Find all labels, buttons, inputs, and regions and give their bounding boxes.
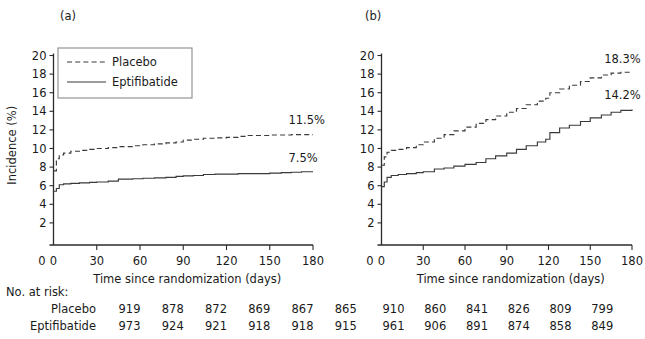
risk-value: 867 xyxy=(292,302,314,316)
svg-text:30: 30 xyxy=(416,254,431,268)
svg-text:20: 20 xyxy=(32,49,47,63)
risk-value: 918 xyxy=(292,319,314,333)
risk-table: No. at risk:PlaceboEptifibatide919878872… xyxy=(6,285,613,333)
risk-value: 915 xyxy=(335,319,357,333)
svg-text:20: 20 xyxy=(360,49,375,63)
svg-text:60: 60 xyxy=(458,254,473,268)
risk-value: 874 xyxy=(508,319,530,333)
risk-value: 891 xyxy=(466,319,488,333)
svg-text:8: 8 xyxy=(367,160,374,174)
svg-text:2: 2 xyxy=(367,216,374,230)
risk-value: 924 xyxy=(162,319,184,333)
svg-text:4: 4 xyxy=(39,197,46,211)
risk-value: 799 xyxy=(591,302,613,316)
risk-value: 878 xyxy=(162,302,184,316)
svg-text:120: 120 xyxy=(538,254,560,268)
svg-text:6: 6 xyxy=(39,179,46,193)
risk-value: 809 xyxy=(550,302,572,316)
svg-text:16: 16 xyxy=(32,86,47,100)
risk-value: 869 xyxy=(248,302,270,316)
svg-text:30: 30 xyxy=(89,254,104,268)
risk-value: 872 xyxy=(205,302,227,316)
risk-value: 910 xyxy=(383,302,405,316)
curve-eptifibatide xyxy=(382,109,633,186)
svg-text:6: 6 xyxy=(367,179,374,193)
svg-text:10: 10 xyxy=(360,142,375,156)
svg-text:60: 60 xyxy=(133,254,148,268)
svg-text:2: 2 xyxy=(39,216,46,230)
annotation-11-5pct: 11.5% xyxy=(288,113,325,127)
risk-value: 919 xyxy=(119,302,141,316)
risk-value: 906 xyxy=(424,319,446,333)
risk-value: 826 xyxy=(508,302,530,316)
svg-text:180: 180 xyxy=(302,254,324,268)
risk-row-label-placebo: Placebo xyxy=(51,302,96,316)
risk-value: 865 xyxy=(335,302,357,316)
curve-placebo xyxy=(54,135,314,171)
svg-text:90: 90 xyxy=(176,254,191,268)
annotation-14-2pct: 14.2% xyxy=(604,88,641,102)
risk-value: 860 xyxy=(424,302,446,316)
panel-b-chart: 024681012141618200306090120150180Time si… xyxy=(360,49,643,287)
svg-text:12: 12 xyxy=(360,123,375,137)
svg-text:16: 16 xyxy=(360,86,375,100)
figure-container: (a) (b) 02468101214161820030609012015018… xyxy=(0,0,645,339)
legend-label-placebo: Placebo xyxy=(112,55,157,69)
svg-text:180: 180 xyxy=(621,254,643,268)
risk-value: 961 xyxy=(383,319,405,333)
svg-text:0: 0 xyxy=(50,254,57,268)
annotation-18-3pct: 18.3% xyxy=(604,52,641,66)
svg-text:8: 8 xyxy=(39,160,46,174)
svg-text:150: 150 xyxy=(259,254,281,268)
annotation-7-5pct: 7.5% xyxy=(288,151,317,165)
svg-text:18: 18 xyxy=(32,67,47,81)
risk-value: 918 xyxy=(248,319,270,333)
svg-text:Time since randomization (days: Time since randomization (days) xyxy=(416,272,605,286)
svg-text:14: 14 xyxy=(32,104,47,118)
legend-label-eptifibatide: Eptifibatide xyxy=(112,75,178,89)
kaplan-meier-figure: 024681012141618200306090120150180Time si… xyxy=(0,0,645,339)
svg-text:18: 18 xyxy=(360,67,375,81)
risk-value: 921 xyxy=(205,319,227,333)
svg-text:14: 14 xyxy=(360,104,375,118)
panel-a-chart: 024681012141618200306090120150180Time si… xyxy=(5,48,325,286)
svg-text:10: 10 xyxy=(32,142,47,156)
svg-text:90: 90 xyxy=(499,254,514,268)
risk-table-title: No. at risk: xyxy=(6,285,68,299)
svg-text:150: 150 xyxy=(579,254,601,268)
svg-text:120: 120 xyxy=(216,254,238,268)
svg-text:12: 12 xyxy=(32,123,47,137)
svg-text:4: 4 xyxy=(367,197,374,211)
risk-value: 849 xyxy=(591,319,613,333)
svg-text:0: 0 xyxy=(38,254,45,268)
risk-value: 841 xyxy=(466,302,488,316)
risk-row-label-eptifibatide: Eptifibatide xyxy=(30,319,96,333)
svg-text:Incidence (%): Incidence (%) xyxy=(5,106,19,185)
svg-text:Time since randomization (days: Time since randomization (days) xyxy=(92,272,281,286)
risk-value: 973 xyxy=(119,319,141,333)
svg-text:0: 0 xyxy=(378,254,385,268)
curve-eptifibatide xyxy=(54,172,314,192)
risk-value: 858 xyxy=(550,319,572,333)
svg-text:0: 0 xyxy=(366,254,373,268)
